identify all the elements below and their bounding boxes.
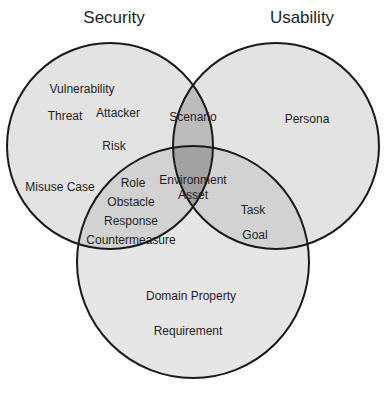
label-vulnerability: Vulnerability <box>50 82 115 96</box>
label-asset: Asset <box>178 188 208 202</box>
security-title: Security <box>83 8 144 28</box>
label-scenario: Scenario <box>169 110 216 124</box>
label-role: Role <box>121 176 146 190</box>
label-response: Response <box>104 214 158 228</box>
label-attacker: Attacker <box>96 106 140 120</box>
label-threat: Threat <box>48 109 83 123</box>
label-persona: Persona <box>285 112 330 126</box>
usability-title: Usability <box>270 8 334 28</box>
label-goal: Goal <box>242 228 267 242</box>
label-environment: Environment <box>159 173 226 187</box>
label-risk: Risk <box>102 139 125 153</box>
label-task: Task <box>241 203 266 217</box>
label-obstacle: Obstacle <box>107 195 154 209</box>
label-domain-property: Domain Property <box>146 289 236 303</box>
label-requirement: Requirement <box>154 324 223 338</box>
label-countermeasure: Countermeasure <box>86 233 175 247</box>
label-misuse-case: Misuse Case <box>25 180 94 194</box>
